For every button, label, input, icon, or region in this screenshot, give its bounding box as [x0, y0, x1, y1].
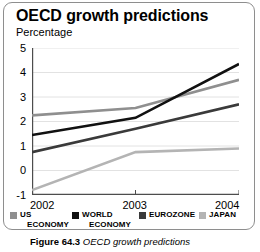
legend-label-line1: JAPAN — [209, 210, 236, 220]
figure-container: OECD growth predictions Percentage 54321… — [0, 0, 260, 252]
legend-swatch-icon — [10, 212, 17, 219]
legend-label-line1: WORLD — [82, 210, 131, 220]
legend-swatch-icon — [139, 212, 146, 219]
y-tick-5: 5 — [6, 43, 26, 54]
legend-label-line2: ECONOMY — [20, 220, 69, 230]
plot-area — [32, 48, 239, 195]
legend-label-line2: ECONOMY — [82, 220, 131, 230]
legend-label: EUROZONE — [149, 210, 195, 220]
figure-caption: Figure 64.3 OECD growth predictions — [30, 236, 256, 247]
legend-swatch-icon — [199, 212, 206, 219]
legend-label-line1: EUROZONE — [149, 210, 195, 220]
y-tick-2: 2 — [6, 116, 26, 127]
legend-item-japan[interactable]: JAPAN — [199, 210, 236, 220]
y-tick--1: -1 — [6, 190, 26, 201]
chart-frame: OECD growth predictions Percentage 54321… — [3, 2, 255, 230]
y-axis-unit-label: Percentage — [16, 26, 72, 38]
legend-label: USECONOMY — [20, 210, 69, 229]
legend-item-us-economy[interactable]: USECONOMY — [10, 210, 69, 229]
y-tick-1: 1 — [6, 141, 26, 152]
chart-legend: USECONOMYWORLDECONOMYEUROZONEJAPAN — [10, 210, 255, 230]
line-chart-svg — [32, 48, 239, 195]
legend-label: JAPAN — [209, 210, 236, 220]
legend-swatch-icon — [72, 212, 79, 219]
figure-caption-text: OECD growth predictions — [83, 236, 190, 247]
legend-label-line1: US — [20, 210, 69, 220]
y-tick-0: 0 — [6, 165, 26, 176]
y-tick-4: 4 — [6, 67, 26, 78]
figure-caption-label: Figure 64.3 — [30, 236, 80, 247]
legend-item-world-economy[interactable]: WORLDECONOMY — [72, 210, 131, 229]
legend-item-eurozone[interactable]: EUROZONE — [139, 210, 195, 220]
chart-title: OECD growth predictions — [16, 7, 208, 25]
legend-label: WORLDECONOMY — [82, 210, 131, 229]
y-tick-3: 3 — [6, 92, 26, 103]
